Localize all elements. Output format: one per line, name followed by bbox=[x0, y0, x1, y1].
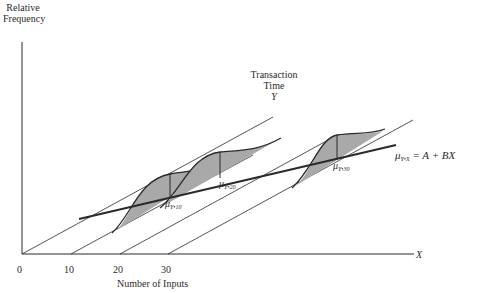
regression-diagram: Relative Frequency Transaction Time Y X … bbox=[0, 0, 480, 293]
x-tick-30: 30 bbox=[161, 264, 171, 275]
y-axis-label-line2: Frequency bbox=[3, 13, 43, 24]
y-axis-label: Relative Frequency bbox=[3, 2, 43, 24]
x-axis-symbol: X bbox=[416, 249, 422, 260]
mean-label-30: μY•30 bbox=[333, 160, 349, 172]
diagram-canvas bbox=[0, 0, 480, 293]
mean-label-20: μY•20 bbox=[219, 178, 235, 190]
mean-label-10: μY•10 bbox=[165, 198, 181, 210]
y-axis-label-line1: Relative bbox=[3, 2, 43, 13]
regression-equation: μY•X = A + BX bbox=[395, 149, 455, 162]
depth-axis-symbol: Y bbox=[244, 91, 304, 102]
depth-axis-label: Transaction Time Y bbox=[244, 69, 304, 102]
depth-axis-label-line1: Transaction bbox=[244, 69, 304, 80]
x-tick-10: 10 bbox=[64, 264, 74, 275]
depth-line-30 bbox=[168, 120, 413, 254]
x-axis-label: Number of Inputs bbox=[117, 278, 188, 289]
x-tick-20: 20 bbox=[113, 264, 123, 275]
depth-axis-label-line2: Time bbox=[244, 80, 304, 91]
x-tick-0: 0 bbox=[17, 264, 22, 275]
